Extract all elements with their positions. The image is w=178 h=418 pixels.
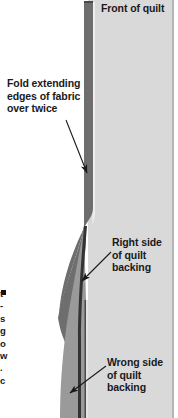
clipped-fragment: t [0,288,12,300]
label-right-side-line2: of quilt [112,249,162,262]
label-right-side-line1: Right side [112,236,162,249]
label-fold-extending: Fold extending edges of fabric over twic… [7,77,80,115]
label-front-of-quilt: Front of quilt [101,2,164,15]
label-wrong-side-line1: Wrong side [107,356,163,369]
clipped-fragment: - [0,300,12,312]
label-wrong-side-line2: of quilt [107,369,163,382]
clipped-fragment: c [0,375,12,387]
clipped-fragment: g [0,325,12,337]
label-fold-line3: over twice [7,102,80,115]
diagram-canvas: Front of quilt Fold extending edges of f… [0,0,178,418]
label-fold-line2: edges of fabric [7,90,80,103]
clipped-fragment: . [0,362,12,374]
fold-top-cap [84,1,93,3]
label-fold-line1: Fold extending [7,77,80,90]
backing-edge-line [85,300,87,418]
quilt-right-border [172,0,174,418]
clipped-fragment: w [0,350,12,362]
label-wrong-side-line3: backing [107,381,163,394]
label-wrong-side-of-quilt-backing: Wrong side of quilt backing [107,356,163,394]
clipped-fragment: o [0,338,12,350]
label-right-side-of-quilt-backing: Right side of quilt backing [112,236,162,274]
fold-leader-line [66,120,87,173]
label-right-side-line3: backing [112,261,162,274]
label-front-of-quilt-line1: Front of quilt [101,2,164,15]
lower-separator-line [86,300,88,418]
clipped-fragment: s [0,313,12,325]
clipped-margin-text-column: t - s g o w . c [0,288,12,387]
